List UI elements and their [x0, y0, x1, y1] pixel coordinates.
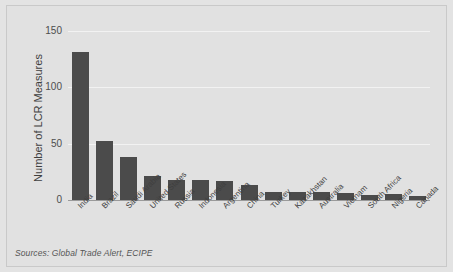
x-axis-labels: IndiaBrazilSaudi ArabiaUnited StatesRuss…	[68, 201, 430, 249]
chart-figure: Number of LCR Measures 150 100 50 0 Indi…	[0, 0, 453, 272]
y-tick-label-50: 50	[22, 139, 62, 149]
y-tick-label-150: 150	[22, 26, 62, 36]
bar-brazil	[96, 141, 113, 200]
bar-india	[72, 52, 89, 200]
bar-series	[68, 22, 430, 200]
y-axis-title: Number of LCR Measures	[32, 33, 44, 203]
y-tick-label-0: 0	[22, 195, 62, 205]
source-note: Sources: Global Trade Alert, ECIPE	[15, 248, 153, 258]
y-tick-label-100: 100	[22, 82, 62, 92]
